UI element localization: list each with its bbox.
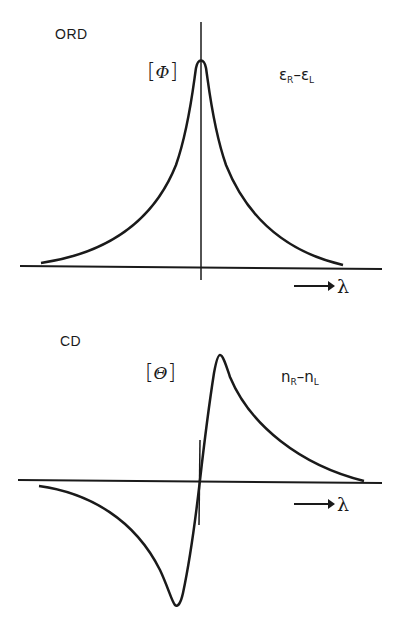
right-arrow-icon	[294, 503, 330, 505]
ord-plot	[0, 0, 395, 305]
ord-ylabel: [Φ]	[147, 58, 178, 83]
ord-panel: ORD [Φ] εR–εL λ	[0, 0, 395, 305]
ord-curve	[41, 61, 343, 266]
theta-symbol: Θ	[154, 363, 168, 383]
ord-x-label: λ	[294, 275, 349, 297]
phi-symbol: Φ	[156, 62, 170, 82]
ord-annotation: εR–εL	[279, 66, 314, 85]
cd-x-label: λ	[294, 493, 349, 515]
cd-ylabel: [Θ]	[145, 359, 176, 384]
cd-title: CD	[60, 333, 81, 349]
ord-title: ORD	[55, 26, 88, 42]
right-arrow-icon	[294, 285, 330, 287]
cd-panel: CD [Θ] nR–nL λ	[0, 305, 395, 622]
cd-annotation: nR–nL	[281, 368, 319, 387]
cd-plot	[0, 305, 395, 622]
